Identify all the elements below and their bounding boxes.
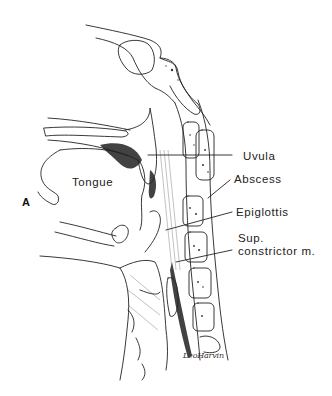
- sup-constrictor-label-line2: constrictor m.: [238, 245, 315, 257]
- anatomical-illustration: Uvula Abscess Epiglottis Sup. constricto…: [0, 0, 332, 396]
- panel-letter: A: [22, 196, 30, 208]
- tongue-label: Tongue: [72, 176, 113, 188]
- epiglottis-label: Epiglottis: [236, 206, 289, 218]
- uvula-label: Uvula: [243, 150, 275, 162]
- abscess-label: Abscess: [234, 173, 282, 185]
- artist-signature: LeoHarvin: [183, 351, 224, 360]
- sup-constrictor-label-line1: Sup.: [238, 232, 264, 244]
- sagittal-section-drawing: [0, 0, 332, 396]
